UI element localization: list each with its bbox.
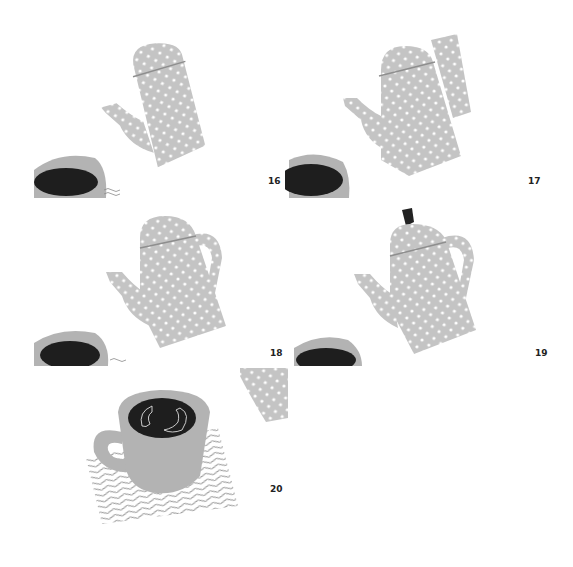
step-panel-17: 17 — [285, 0, 573, 198]
step-panel-16: 16 — [0, 0, 290, 198]
coffee-pot — [354, 208, 476, 354]
step-number-17: 17 — [528, 176, 541, 186]
coffee-cup-top — [34, 331, 126, 366]
pot-knob — [402, 208, 414, 226]
step-panel-20: 20 — [60, 366, 320, 567]
pot-bottom-fragment — [240, 368, 288, 422]
coffee-cup-top — [285, 154, 349, 198]
step-panel-18: 18 — [0, 198, 290, 366]
pot-spout — [343, 98, 385, 150]
coffee-pot — [106, 216, 226, 348]
step-number-18: 18 — [270, 348, 283, 358]
pot-body — [131, 38, 208, 168]
step-17-illustration — [285, 0, 573, 198]
step-19-illustration — [290, 198, 573, 366]
coffee-cup-top — [34, 156, 120, 198]
coffee-surface — [128, 398, 196, 438]
step-number-19: 19 — [535, 348, 548, 358]
step-16-illustration — [0, 0, 290, 198]
step-number-20: 20 — [270, 484, 283, 494]
coffee-pot — [93, 38, 207, 174]
step-20-illustration — [60, 366, 320, 567]
step-18-illustration — [0, 198, 290, 366]
coffee-pot — [343, 34, 471, 176]
coffee-cup-top — [294, 337, 362, 366]
step-panel-19: 19 — [290, 198, 573, 366]
step-number-16: 16 — [268, 176, 281, 186]
